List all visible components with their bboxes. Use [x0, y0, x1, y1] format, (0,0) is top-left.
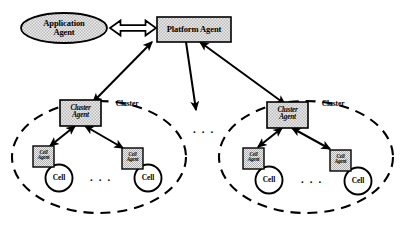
connector-platform-to-cluster-left — [93, 42, 152, 102]
application-platform-block-arrow — [110, 21, 156, 36]
cell-agent-left-1-shape — [33, 146, 54, 167]
connector-cluster-left-to-cell-agent-2 — [85, 126, 123, 148]
platform-agent-shape — [157, 17, 231, 42]
connector-cluster-left-to-cell-agent-1 — [50, 126, 75, 146]
cell-right-1-shape — [256, 167, 283, 194]
application-agent-shape — [21, 13, 107, 43]
cluster-agent-right-shape — [267, 102, 308, 128]
cell-agent-left-2-shape — [122, 148, 143, 169]
connector-platform-to-middle — [186, 42, 196, 110]
diagram-svg-layer — [0, 0, 403, 232]
cell-left-1-shape — [46, 165, 73, 192]
connector-cluster-right-to-cell-agent-2 — [292, 128, 330, 149]
connector-platform-to-cluster-right — [200, 42, 285, 104]
connector-cluster-right-to-cell-agent-1 — [258, 128, 282, 147]
cluster-agent-left-shape — [60, 100, 101, 126]
cell-agent-right-2-shape — [330, 150, 351, 171]
diagram-canvas: Application Agent Platform Agent Cluster… — [0, 0, 403, 232]
cell-agent-right-1-shape — [243, 148, 264, 169]
